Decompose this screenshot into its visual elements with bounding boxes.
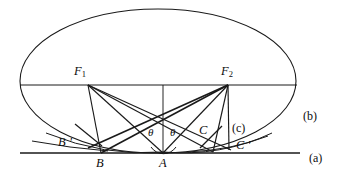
label-point-a: A xyxy=(159,157,167,170)
ray-f2-to-c xyxy=(213,85,228,152)
ray-f2-to-b xyxy=(101,85,228,153)
label-point-c-prime: C ′ xyxy=(236,139,251,152)
label-point-b: B xyxy=(96,157,104,170)
label-theta-right: θ xyxy=(170,127,175,138)
label-point-b-prime: B ′ xyxy=(58,136,72,149)
figure-canvas xyxy=(0,0,341,175)
label-part-a: (a) xyxy=(309,152,322,164)
label-theta-left: θ xyxy=(148,127,153,138)
label-focus-2: F2 xyxy=(221,65,233,78)
ellipse-geometry-figure: F1 F2 θ θ B ′ B A C C ′ (a) (b) (c) xyxy=(0,0,341,175)
label-part-b: (b) xyxy=(303,110,317,122)
ray-f2-to-c-prime xyxy=(228,85,229,150)
label-point-c: C xyxy=(199,124,207,137)
label-part-c: (c) xyxy=(232,122,245,134)
label-focus-1: F1 xyxy=(74,65,86,78)
ellipse-outline xyxy=(20,9,296,153)
